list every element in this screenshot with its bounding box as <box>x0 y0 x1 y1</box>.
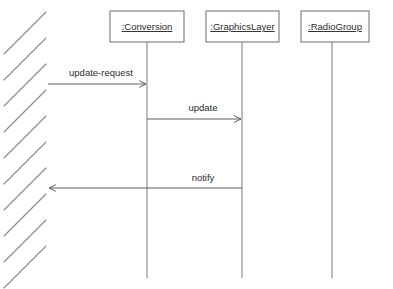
diagram-background <box>0 0 393 289</box>
message-label-update-request: update-request <box>69 67 133 78</box>
lifeline-label-graphicslayer: :GraphicsLayer <box>210 21 274 32</box>
message-label-update: update <box>188 102 217 113</box>
lifeline-label-conversion: :Conversion <box>122 21 173 32</box>
uml-sequence-diagram: :Conversion:GraphicsLayer:RadioGroup upd… <box>0 0 393 289</box>
sequence-diagram-canvas: :Conversion:GraphicsLayer:RadioGroup upd… <box>0 0 393 289</box>
lifeline-label-radiogroup: :RadioGroup <box>308 21 362 32</box>
message-label-notify: notify <box>192 172 215 183</box>
